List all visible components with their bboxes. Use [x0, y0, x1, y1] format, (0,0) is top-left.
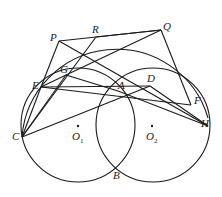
segments: [22, 30, 208, 137]
big-circle: [22, 49, 208, 137]
label-p: P: [49, 31, 57, 43]
label-d: D: [146, 72, 155, 84]
label-q: Q: [163, 20, 171, 32]
center-o2-dot: [151, 125, 153, 127]
label-g: G: [60, 63, 68, 75]
label-o1: O: [72, 130, 80, 142]
center-o1-dot: [77, 125, 79, 127]
label-a: A: [117, 79, 125, 91]
label-c: C: [12, 130, 20, 142]
label-o2: O: [146, 130, 154, 142]
label-h: H: [200, 117, 210, 129]
label-r: R: [91, 23, 99, 35]
geometry-diagram: P R Q G E A D F H C B O 1 O 2: [0, 0, 222, 197]
label-b: B: [113, 169, 120, 181]
label-o1-sub: 1: [80, 137, 84, 145]
label-o2-sub: 2: [154, 137, 158, 145]
label-f: F: [193, 94, 201, 106]
circle-o2: [96, 68, 210, 182]
label-e: E: [31, 79, 39, 91]
